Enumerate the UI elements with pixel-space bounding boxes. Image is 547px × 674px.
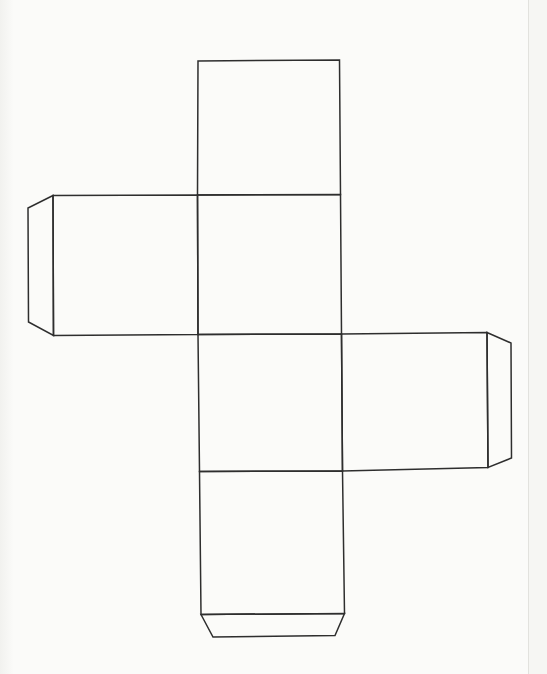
- scanned-page: [0, 0, 547, 674]
- tab-bottom: [201, 614, 345, 638]
- face-left: [53, 195, 198, 336]
- tab-right: [487, 333, 512, 468]
- face-bottom: [200, 471, 345, 615]
- face-upper-middle: [198, 195, 342, 335]
- face-right: [342, 333, 489, 472]
- cube-net-diagram: [0, 0, 547, 674]
- face-top: [198, 60, 341, 195]
- face-lower-middle: [198, 334, 343, 472]
- tab-left: [28, 196, 54, 336]
